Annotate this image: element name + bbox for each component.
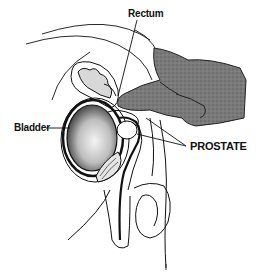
bladder-label: Bladder <box>14 122 50 133</box>
rectum-leader-line <box>118 20 137 96</box>
rectum-label: Rectum <box>128 8 163 19</box>
gloved-hand <box>118 48 246 126</box>
prostate-leader-lines <box>137 118 186 146</box>
prostate-label: PROSTATE <box>190 140 247 152</box>
